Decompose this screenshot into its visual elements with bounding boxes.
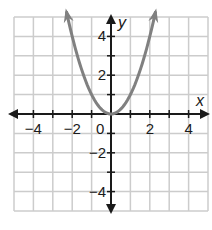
graph-canvas: −4−22442−2−4 y x 0 [0,0,212,230]
y-tick-label: −2 [89,144,106,161]
x-axis-label: x [195,92,205,109]
y-tick-label: −4 [89,183,106,200]
origin-label: 0 [96,120,104,137]
x-tick-label: 4 [184,120,192,137]
y-axis-down-arrow-icon [106,204,116,214]
x-tick-label: −4 [25,120,42,137]
y-axis-label: y [117,14,127,31]
x-axis-left-arrow-icon [8,109,18,119]
y-tick-label: 4 [98,27,106,44]
y-tick-label: 2 [98,66,106,83]
x-tick-label: 2 [146,120,154,137]
x-tick-label: −2 [64,120,81,137]
y-axis-up-arrow-icon [106,14,116,24]
